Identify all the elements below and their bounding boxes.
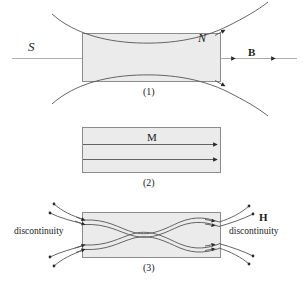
pole-label-south: S — [28, 40, 35, 53]
pole-label-north: N — [198, 32, 206, 44]
field-line-h-out-right-1 — [219, 206, 249, 222]
panel-3-magnet-slab — [83, 213, 221, 258]
endpoint-dot — [252, 213, 255, 216]
field-label-m: M — [147, 132, 157, 143]
endpoint-dot — [53, 265, 56, 268]
panel-3-caption: (3) — [143, 263, 155, 273]
panel-1-group — [12, 0, 297, 116]
endpoint-dot — [248, 263, 251, 266]
discontinuity-label-right: discontinuity — [229, 227, 279, 237]
panel-1-field-arrowheads — [215, 31, 274, 86]
field-line-h-out-right-4 — [219, 248, 249, 264]
magnetic-field-figure: S N B (1) M (2) discontinuity discontinu… — [0, 0, 303, 282]
field-line-h-out-left-4 — [54, 250, 84, 266]
endpoint-dot — [252, 255, 255, 258]
field-label-b: B — [248, 47, 255, 58]
endpoint-dot — [248, 205, 251, 208]
field-label-h: H — [259, 212, 268, 223]
endpoint-dot — [49, 256, 52, 259]
panel-1-caption: (1) — [143, 87, 155, 97]
panel-2-caption: (2) — [143, 178, 155, 188]
discontinuity-label-left: discontinuity — [14, 227, 64, 237]
endpoint-dot — [49, 212, 52, 215]
panel-3-group — [49, 203, 255, 268]
field-line-h-out-left-1 — [54, 204, 84, 220]
endpoint-dot — [53, 203, 56, 206]
